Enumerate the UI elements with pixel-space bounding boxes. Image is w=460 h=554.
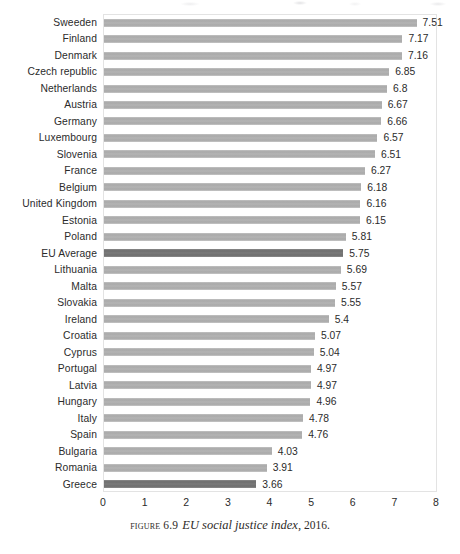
bar-track: 5.4	[104, 311, 460, 328]
bar-row: Slovakia5.55	[0, 294, 460, 311]
bar	[104, 101, 382, 109]
bar-track: 5.75	[104, 245, 460, 262]
bar	[104, 216, 360, 224]
category-label: Slovakia	[0, 294, 97, 311]
bar-value-label: 4.78	[309, 410, 329, 427]
category-label: Italy	[0, 410, 97, 427]
figure-number: 6.9	[163, 519, 178, 531]
category-label: Poland	[0, 228, 97, 245]
category-label: Ireland	[0, 311, 97, 328]
figure-word: Figure	[130, 519, 160, 531]
bar-value-label: 6.66	[387, 113, 407, 130]
bar-track: 5.69	[104, 261, 460, 278]
bar	[104, 365, 311, 373]
category-label: Germany	[0, 113, 97, 130]
category-label: Denmark	[0, 47, 97, 64]
bar-value-label: 4.03	[278, 443, 298, 460]
figure-caption: Figure 6.9EU social justice index, 2016.	[0, 518, 460, 533]
bar-row: France6.27	[0, 162, 460, 179]
bar-row: Austria6.67	[0, 96, 460, 113]
bar-value-label: 4.97	[317, 377, 337, 394]
bar-value-label: 6.15	[366, 212, 386, 229]
x-tick-label: 4	[255, 495, 285, 509]
bar	[104, 150, 375, 158]
bar-track: 6.51	[104, 146, 460, 163]
bar	[104, 134, 377, 142]
bar-track: 4.03	[104, 443, 460, 460]
category-label: Czech republic	[0, 63, 97, 80]
bar-row: Luxembourg6.57	[0, 129, 460, 146]
category-label: Latvia	[0, 377, 97, 394]
x-tick-label: 5	[296, 495, 326, 509]
bar-row: Spain4.76	[0, 426, 460, 443]
bar-value-label: 3.91	[273, 459, 293, 476]
bar-value-label: 5.69	[347, 261, 367, 278]
bar-row: Greece3.66	[0, 476, 460, 493]
bar-row: Belgium6.18	[0, 179, 460, 196]
bar-track: 6.66	[104, 113, 460, 130]
bar-value-label: 4.97	[317, 360, 337, 377]
bar-value-label: 6.16	[366, 195, 386, 212]
bar	[104, 200, 360, 208]
bar-row: Czech republic6.85	[0, 63, 460, 80]
bar-row: Croatia5.07	[0, 327, 460, 344]
bar	[104, 464, 267, 472]
bar-track: 6.27	[104, 162, 460, 179]
category-label: Sweeden	[0, 14, 97, 31]
bar	[104, 52, 402, 60]
x-tick-label: 0	[88, 495, 118, 509]
bar-track: 4.97	[104, 377, 460, 394]
bar-value-label: 7.17	[408, 30, 428, 47]
x-tick-label: 8	[421, 495, 451, 509]
bar	[104, 117, 381, 125]
bar-row: United Kingdom6.16	[0, 195, 460, 212]
category-label: Croatia	[0, 327, 97, 344]
bar	[104, 233, 346, 241]
bar-row: Lithuania5.69	[0, 261, 460, 278]
bar-value-label: 6.27	[371, 162, 391, 179]
category-label: Cyprus	[0, 344, 97, 361]
bar	[104, 398, 310, 406]
bar-track: 7.51	[104, 14, 460, 31]
figure-year: 2016.	[304, 519, 330, 531]
bar	[104, 447, 272, 455]
bar-row: Cyprus5.04	[0, 344, 460, 361]
bar-track: 6.85	[104, 63, 460, 80]
bar-value-label: 5.4	[335, 311, 349, 328]
x-tick-label: 7	[379, 495, 409, 509]
bar-track: 3.91	[104, 459, 460, 476]
bar-track: 7.16	[104, 47, 460, 64]
category-label: Greece	[0, 476, 97, 493]
bar	[104, 266, 341, 274]
bar-row: Latvia4.97	[0, 377, 460, 394]
category-label: Belgium	[0, 179, 97, 196]
bar-track: 5.55	[104, 294, 460, 311]
bar	[104, 332, 315, 340]
bar-track: 6.8	[104, 80, 460, 97]
x-tick-label: 1	[130, 495, 160, 509]
bar-row: Poland5.81	[0, 228, 460, 245]
bar-value-label: 6.57	[383, 129, 403, 146]
bar-track: 4.76	[104, 426, 460, 443]
x-tick-label: 6	[338, 495, 368, 509]
bar	[104, 414, 303, 422]
bar-value-label: 5.57	[342, 278, 362, 295]
bar-row: Portugal4.97	[0, 360, 460, 377]
bar-track: 5.81	[104, 228, 460, 245]
category-label: Finland	[0, 30, 97, 47]
bar-value-label: 6.85	[395, 63, 415, 80]
category-label: France	[0, 162, 97, 179]
bar-row: Slovenia6.51	[0, 146, 460, 163]
x-tick-label: 3	[213, 495, 243, 509]
bar-track: 5.07	[104, 327, 460, 344]
bar	[104, 348, 314, 356]
bar-value-label: 3.66	[262, 476, 282, 493]
bar-track: 6.67	[104, 96, 460, 113]
bar-row: EU Average5.75	[0, 245, 460, 262]
category-label: EU Average	[0, 245, 97, 262]
category-label: Portugal	[0, 360, 97, 377]
bar-value-label: 7.51	[423, 14, 443, 31]
bar-row: Finland7.17	[0, 30, 460, 47]
bar-track: 6.16	[104, 195, 460, 212]
bar	[104, 381, 311, 389]
